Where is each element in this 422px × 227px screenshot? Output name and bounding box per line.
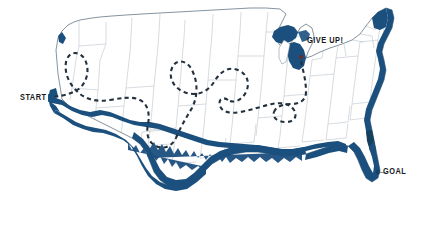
usa-map-svg [0,0,422,227]
give-up-marker-dot [299,55,303,59]
label-start: START [20,93,47,102]
map-figure: START GIVE UP! GOAL [0,0,422,227]
label-give-up: GIVE UP! [307,36,343,45]
label-goal: GOAL [383,167,406,176]
